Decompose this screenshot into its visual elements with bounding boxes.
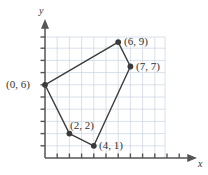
point-label-7-7: (7, 7) [136, 61, 160, 72]
y-axis-arrow [42, 21, 48, 28]
point-label-0-6: (0, 6) [6, 79, 30, 90]
x-axis-label: x [198, 159, 202, 169]
vertex-points [42, 39, 133, 149]
point-label-4-1: (4, 1) [99, 140, 123, 151]
vertex-4-1 [91, 143, 97, 149]
y-axis-label: y [39, 6, 43, 16]
vertex-0-6 [42, 82, 48, 88]
coordinate-plane-figure: (0, 6) (6, 9) (7, 7) (4, 1) (2, 2) y x [0, 0, 208, 175]
vertex-6-9 [115, 39, 121, 45]
vertex-7-7 [127, 64, 133, 70]
x-axis-arrow [188, 155, 195, 161]
vertex-2-2 [67, 131, 73, 137]
point-label-6-9: (6, 9) [124, 36, 148, 47]
point-label-2-2: (2, 2) [70, 120, 94, 131]
